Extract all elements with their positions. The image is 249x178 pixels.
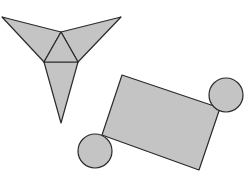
cylinder-rectangle <box>102 75 220 170</box>
bottom-circle <box>78 134 112 168</box>
cylinder-net <box>78 75 243 170</box>
triangle-net <box>2 17 121 123</box>
top-circle <box>209 78 243 112</box>
nets-diagram <box>0 0 249 178</box>
bottom-flap <box>44 62 78 123</box>
